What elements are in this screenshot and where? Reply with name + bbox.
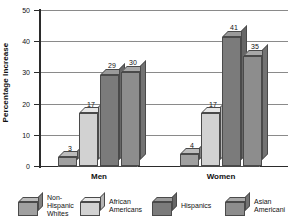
value-label-women-hispanic: 41 xyxy=(222,24,246,31)
bar-face xyxy=(180,154,199,166)
gridline-50 xyxy=(40,10,288,11)
legend-swatch-icon xyxy=(152,197,172,211)
y-tick-40 xyxy=(34,41,39,42)
group-label-women: Women xyxy=(196,172,246,181)
bar-face xyxy=(222,37,241,166)
bar-women-non-hispanic-whites xyxy=(180,154,199,166)
y-tick-label-30: 30 xyxy=(0,69,30,76)
legend: Non- Hispanic Whites African Americans xyxy=(0,192,288,224)
bar-women-hispanics xyxy=(222,37,241,166)
legend-swatch-icon xyxy=(18,197,38,211)
bar-men-african-americans xyxy=(79,113,98,166)
legend-label-line-1: Asian xyxy=(254,198,288,206)
chart-root: Percentage Increase 50 40 30 20 10 0 3 1… xyxy=(0,0,288,224)
legend-swatch-icon xyxy=(225,197,245,211)
value-label-men-asian: 30 xyxy=(121,59,145,66)
bar-men-hispanics xyxy=(100,75,119,166)
y-axis-label: Percentage Increase xyxy=(1,18,10,148)
legend-label-line-1: Hispanics xyxy=(181,202,227,210)
bar-face xyxy=(121,72,140,166)
bar-face xyxy=(79,113,98,166)
bar-face xyxy=(201,113,220,166)
legend-label-asian-americans: Asian Americani xyxy=(254,198,288,214)
y-tick-label-0: 0 xyxy=(0,163,30,170)
y-tick-label-40: 40 xyxy=(0,38,30,45)
legend-label-line-1: African xyxy=(109,198,155,206)
value-label-women-asian: 35 xyxy=(243,43,267,50)
bar-side xyxy=(140,60,146,160)
bar-face xyxy=(100,75,119,166)
bar-women-asian-americans xyxy=(243,56,262,166)
y-tick-label-10: 10 xyxy=(0,132,30,139)
legend-label-african-americans: African Americans xyxy=(109,198,155,214)
y-tick-label-20: 20 xyxy=(0,101,30,108)
gridline-40 xyxy=(40,41,288,42)
bar-men-non-hispanic-whites xyxy=(58,157,77,166)
y-tick-30 xyxy=(34,72,39,73)
legend-label-hispanics: Hispanics xyxy=(181,202,227,210)
y-tick-0 xyxy=(34,166,39,167)
bar-face xyxy=(243,56,262,166)
y-tick-label-50: 50 xyxy=(0,7,30,14)
bar-face xyxy=(58,157,77,166)
legend-label-line-2: Americani xyxy=(254,206,288,214)
y-tick-50 xyxy=(34,10,39,11)
bar-side xyxy=(262,44,268,160)
bar-men-asian-americans xyxy=(121,72,140,166)
bar-women-african-americans xyxy=(201,113,220,166)
y-tick-10 xyxy=(34,135,39,136)
legend-label-line-2: Americans xyxy=(109,206,155,214)
y-tick-20 xyxy=(34,104,39,105)
legend-swatch-icon xyxy=(80,197,100,211)
group-label-men: Men xyxy=(74,172,124,181)
y-axis-spine xyxy=(39,9,41,168)
